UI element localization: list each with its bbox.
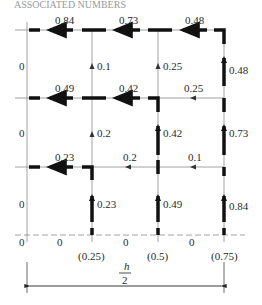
label-r1-1: 0.49 (55, 82, 75, 94)
label-v2-2: 0.49 (163, 198, 183, 210)
thin-up-arrows (90, 63, 161, 137)
label-r1-3: 0.25 (184, 82, 204, 94)
label-v2-3: 0.84 (229, 200, 249, 212)
label-top-2: 0.73 (119, 14, 139, 26)
label-v1-3: 0.73 (229, 127, 249, 139)
grid-vertical-lines (27, 22, 224, 242)
bottom-position-labels: (0.25) (0.5) (0.75) (78, 250, 238, 263)
position-label-1: (0.25) (78, 250, 105, 263)
label-bottom-2: 0 (123, 236, 129, 248)
grid-horizontal-lines (15, 30, 245, 235)
label-r2-3: 0.1 (188, 151, 202, 163)
label-v1-2: 0.42 (163, 127, 182, 139)
label-r1-2: 0.42 (119, 82, 138, 94)
flow-row-1 (29, 98, 158, 112)
dimension-h-over-2: h 2 (27, 260, 224, 293)
dimension-denominator: 2 (122, 274, 128, 286)
label-v0-2: 0.25 (163, 60, 183, 72)
label-r2-1: 0.23 (55, 151, 75, 163)
label-v1-1: 0.2 (97, 127, 111, 139)
dimension-numerator: h (124, 260, 130, 272)
flow-top-row (29, 30, 224, 44)
label-top-3: 0.48 (185, 14, 205, 26)
label-bottom-3: 0 (189, 236, 195, 248)
label-bottom-corner: 0 (19, 236, 25, 248)
label-v2-0: 0 (19, 198, 25, 210)
title-fragment: ASSOCIATED NUMBERS (14, 0, 126, 10)
position-label-3: (0.75) (211, 250, 238, 263)
position-label-2: (0.5) (147, 250, 168, 263)
label-v0-1: 0.1 (97, 60, 111, 72)
label-v0-3: 0.48 (229, 64, 249, 76)
label-v0-0: 0 (19, 60, 25, 72)
label-v1-0: 0 (19, 127, 25, 139)
flow-row-2 (29, 167, 92, 180)
label-r2-2: 0.2 (123, 151, 137, 163)
label-bottom-1: 0 (57, 236, 63, 248)
flow-grid-diagram: ASSOCIATED NUMBERS (0, 0, 262, 305)
label-top-1: 0.84 (55, 14, 75, 26)
label-v2-1: 0.23 (97, 198, 117, 210)
